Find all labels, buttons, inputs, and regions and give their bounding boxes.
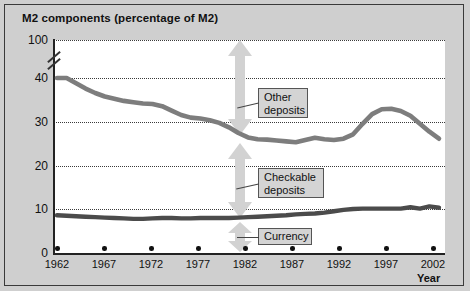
x-tick-label-2002: 2002 [410,258,456,270]
x-tick-dot-1997 [384,246,389,251]
x-tick-label-1987: 1987 [269,258,315,270]
callout-currency-label: Currency [264,230,309,242]
line-other-deposits [57,78,439,142]
line-currency [57,206,439,219]
x-tick-label-1977: 1977 [175,258,221,270]
chart-figure: M2 components (percentage of M2) 100 40 … [0,0,470,291]
x-tick-dot-1982 [243,246,248,251]
callout-checkable-deposits: Checkable deposits [258,168,324,198]
callout-currency: Currency [258,228,312,245]
y-tick-label-40: 40 [14,71,48,85]
x-tick-dot-1992 [337,246,342,251]
x-tick-label-1972: 1972 [128,258,174,270]
x-tick-label-1992: 1992 [316,258,362,270]
x-tick-dot-1977 [196,246,201,251]
leader-currency [237,237,259,238]
callout-other-deposits: Other deposits [258,88,308,118]
x-tick-dot-1972 [149,246,154,251]
x-tick-label-1997: 1997 [363,258,409,270]
callout-other-deposits-line2: deposits [264,104,305,116]
callout-checkable-deposits-line1: Checkable [264,171,316,183]
x-axis-title: Year [417,272,440,284]
x-tick-dot-1987 [290,246,295,251]
x-tick-label-1962: 1962 [34,258,80,270]
x-tick-dot-2002 [431,246,436,251]
series-lines [54,40,445,254]
x-tick-label-1967: 1967 [81,258,127,270]
y-tick-label-30: 30 [14,115,48,129]
y-tick-label-20: 20 [14,159,48,173]
callout-other-deposits-line1: Other [264,91,292,103]
callout-checkable-deposits-line2: deposits [264,184,305,196]
x-tick-label-1982: 1982 [222,258,268,270]
chart-title: M2 components (percentage of M2) [22,12,218,24]
y-tick-label-100: 100 [14,33,48,47]
y-tick-label-10: 10 [14,202,48,216]
x-tick-dot-1967 [102,246,107,251]
x-tick-dot-1962 [55,246,60,251]
